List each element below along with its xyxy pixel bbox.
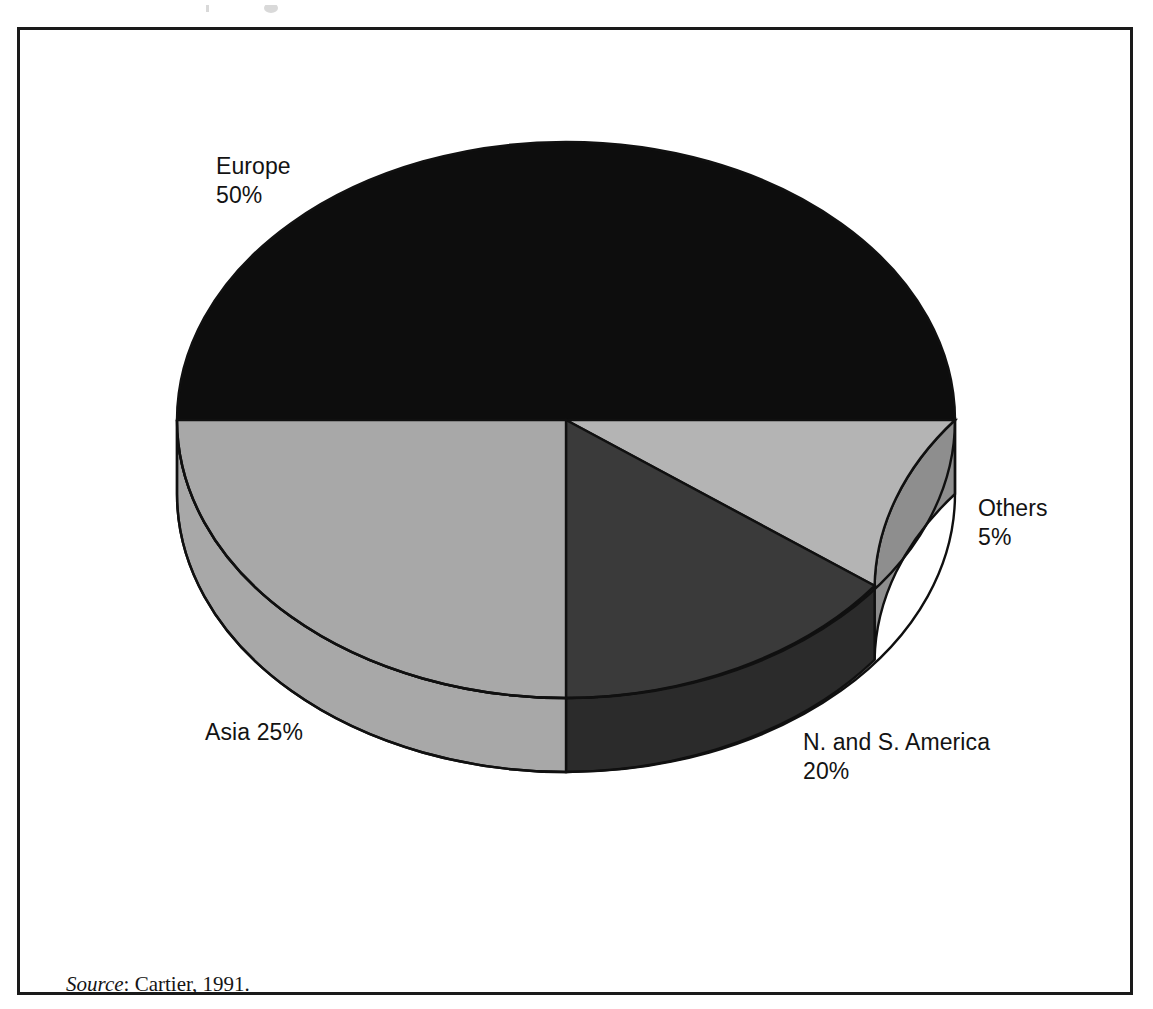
slice-top-asia: [177, 420, 566, 698]
slice-label-europe: Europe 50%: [216, 152, 291, 210]
source-note: Source: Cartier, 1991.: [45, 947, 250, 1009]
slice-label-others: Others 5%: [978, 494, 1048, 552]
source-note-separator: :: [124, 972, 135, 996]
figure-container: Europe 50% Others 5% N. and S. America 2…: [0, 0, 1153, 1009]
slice-label-america: N. and S. America 20%: [803, 728, 990, 786]
slice-top-europe: [177, 142, 955, 420]
source-note-text: Cartier, 1991.: [135, 972, 250, 996]
source-note-label: Source: [66, 972, 124, 996]
pie-chart: Europe 50% Others 5% N. and S. America 2…: [0, 0, 1153, 1009]
slice-label-asia: Asia 25%: [205, 718, 303, 747]
